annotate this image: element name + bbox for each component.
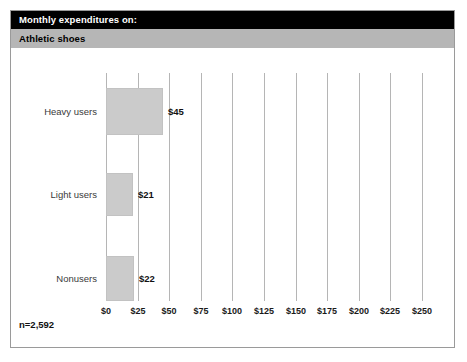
- gridline: [359, 73, 360, 301]
- chart-title: Monthly expenditures on:: [19, 14, 137, 25]
- gridline: [296, 73, 297, 301]
- x-tick-label: $50: [161, 306, 176, 316]
- bar-value-label: $22: [139, 273, 155, 284]
- category-label: Heavy users: [44, 106, 97, 117]
- bar: [106, 256, 134, 301]
- x-tick-label: $150: [286, 306, 306, 316]
- sample-size-note: n=2,592: [19, 319, 54, 330]
- category-label: Light users: [51, 189, 97, 200]
- x-tick-label: $75: [193, 306, 208, 316]
- x-tick-label: $25: [130, 306, 145, 316]
- x-tick-label: $175: [317, 306, 337, 316]
- bar: [106, 88, 163, 135]
- bar-value-label: $45: [168, 106, 184, 117]
- x-tick-label: $125: [254, 306, 274, 316]
- gridline: [232, 73, 233, 301]
- gridline: [390, 73, 391, 301]
- chart-subtitle: Athletic shoes: [19, 33, 85, 44]
- gridline: [422, 73, 423, 301]
- category-label: Nonusers: [56, 273, 97, 284]
- x-tick-label: $200: [349, 306, 369, 316]
- x-tick-label: $0: [101, 306, 111, 316]
- x-tick-label: $225: [380, 306, 400, 316]
- chart-subtitle-bar: Athletic shoes: [11, 29, 454, 48]
- gridline: [264, 73, 265, 301]
- bar-value-label: $21: [138, 189, 154, 200]
- x-tick-label: $100: [222, 306, 242, 316]
- x-tick-label: $250: [412, 306, 432, 316]
- plot-area: $0$25$50$75$100$125$150$175$200$225$250 …: [11, 48, 454, 348]
- gridline: [201, 73, 202, 301]
- y-axis-category-labels: Heavy usersLight usersNonusers: [11, 48, 97, 303]
- chart-title-bar: Monthly expenditures on:: [11, 11, 454, 29]
- chart-figure: Monthly expenditures on: Athletic shoes …: [10, 10, 455, 348]
- gridline: [327, 73, 328, 301]
- bar: [106, 173, 133, 216]
